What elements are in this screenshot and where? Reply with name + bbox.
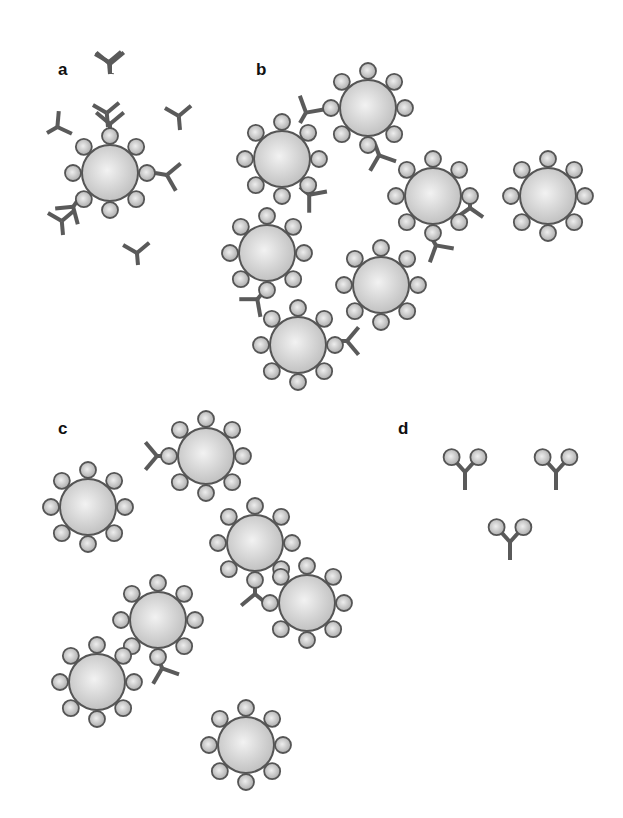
antigen-bead-icon [76,191,92,207]
antigen-bead-icon [316,311,332,327]
antigen-bead-icon [462,188,478,204]
antigen-coated-particle [253,300,343,390]
antibody-icon [165,106,191,130]
antibody-stem [179,116,180,130]
panel-label-b: b [256,60,266,80]
antigen-coated-particle [43,462,133,552]
latex-particle-icon [130,592,186,648]
antigen-bead-icon [290,374,306,390]
antigen-bead-icon [54,525,70,541]
antigen-bead-icon [224,422,240,438]
antigen-bead-icon [397,100,413,116]
antigen-bead-icon [399,214,415,230]
antigen-bead-icon [102,202,118,218]
latex-particle-icon [69,654,125,710]
antibody-icon [47,111,72,134]
antibody-arm [123,245,137,253]
antigen-bead-icon [139,165,155,181]
antibody-icon [155,164,181,191]
antigen-bead-icon [444,449,460,465]
antibody-arm [48,213,62,221]
latex-particle-icon [239,225,295,281]
antigen-bead-icon [102,128,118,144]
antibody-arm [379,155,396,161]
antigen-bead-icon [285,219,301,235]
antigen-bead-icon [360,137,376,153]
antibody-arm [62,211,74,221]
latex-particle-icon [353,257,409,313]
antigen-bead-icon [247,572,263,588]
antigen-bead-icon [399,251,415,267]
antigen-bead-icon [106,473,122,489]
antigen-bead-icon [161,448,177,464]
antigen-bead-icon [52,674,68,690]
antigen-bead-icon [76,139,92,155]
antigen-bead-icon [274,188,290,204]
antibody-arm [137,243,149,253]
antigen-bead-icon [284,535,300,551]
antigen-bead-icon [187,612,203,628]
antigen-bead-icon [106,525,122,541]
panel-label-c: c [58,419,67,439]
antigen-bead-icon [43,499,59,515]
antigen-bead-icon [514,162,530,178]
antibody-icon [535,449,578,490]
antibody-arm [145,442,157,456]
antigen-bead-icon [210,535,226,551]
antigen-bead-icon [221,561,237,577]
panel-label-a: a [58,60,67,80]
antibody-arm [430,245,436,262]
antibody-arm [306,109,324,112]
antigen-bead-icon [262,595,278,611]
antibody-arm [153,668,162,684]
antigen-bead-icon [113,612,129,628]
antigen-bead-icon [150,649,166,665]
antigen-bead-icon [347,251,363,267]
antibody-arm [241,594,255,606]
antibody-stem [62,221,63,235]
antigen-bead-icon [373,314,389,330]
antigen-bead-icon [386,126,402,142]
antigen-bead-icon [238,700,254,716]
latex-particle-icon [254,131,310,187]
antibody-arm [300,96,306,113]
antigen-bead-icon [410,277,426,293]
antigen-bead-icon [275,737,291,753]
antigen-bead-icon [300,177,316,193]
antigen-coated-particle [323,63,413,153]
figure: a b c d [0,0,623,818]
antigen-bead-icon [323,100,339,116]
antigen-bead-icon [124,586,140,602]
antigen-bead-icon [212,711,228,727]
antibody-stem [300,113,306,123]
antibody-arm [57,111,58,127]
latex-particle-icon [340,80,396,136]
antigen-bead-icon [386,74,402,90]
antibody-arm [165,108,179,116]
antibody-stem [109,62,110,74]
antigen-bead-icon [259,282,275,298]
antigen-coated-particle [222,208,312,298]
antigen-bead-icon [221,509,237,525]
antigen-bead-icon [63,700,79,716]
antibody-arm [73,207,78,224]
antibody-icon [489,519,532,560]
antigen-bead-icon [290,300,306,316]
latex-particle-icon [60,479,116,535]
antigen-coated-particle [65,128,155,218]
antigen-bead-icon [115,648,131,664]
antigen-bead-icon [128,191,144,207]
antigen-bead-icon [325,621,341,637]
antigen-bead-icon [247,498,263,514]
antigen-coated-particle [161,411,251,501]
antigen-bead-icon [248,125,264,141]
antibody-arm [436,245,454,248]
antigen-bead-icon [233,271,249,287]
antigen-bead-icon [176,638,192,654]
antigen-bead-icon [566,162,582,178]
antigen-bead-icon [117,499,133,515]
antigen-bead-icon [540,151,556,167]
antigen-bead-icon [451,162,467,178]
antigen-bead-icon [237,151,253,167]
antigen-bead-icon [80,536,96,552]
